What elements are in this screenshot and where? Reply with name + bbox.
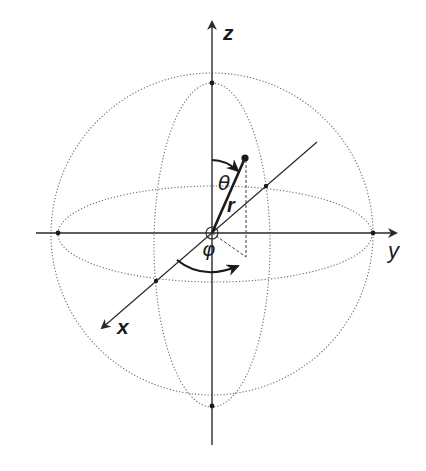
r-label: r bbox=[227, 194, 236, 216]
equator-ellipse bbox=[58, 186, 372, 282]
z-axis-label: z bbox=[222, 21, 234, 44]
projection-radial-dashed bbox=[212, 233, 246, 257]
x-axis bbox=[102, 142, 317, 328]
y-axis-label: y bbox=[386, 238, 401, 263]
theta-label: θ bbox=[218, 171, 230, 195]
phi-label: φ bbox=[202, 237, 215, 261]
phi-arc bbox=[177, 260, 238, 272]
spherical-coordinates-diagram: z y x θ r φ bbox=[0, 0, 426, 471]
theta-arc bbox=[212, 160, 238, 171]
x-axis-label: x bbox=[116, 315, 130, 338]
intersection-dots bbox=[56, 81, 376, 409]
point-p bbox=[241, 154, 248, 161]
